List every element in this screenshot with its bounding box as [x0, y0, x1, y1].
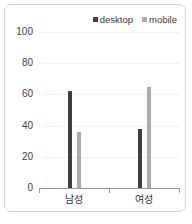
y-axis-tick-labels: 020406080100: [5, 5, 37, 211]
bar-desktop-남성[interactable]: [68, 91, 72, 188]
gridline-60: [39, 94, 179, 95]
bar-mobile-여성[interactable]: [147, 87, 151, 188]
gridline-20: [39, 157, 179, 158]
y-tick-label-80: 80: [5, 58, 37, 68]
x-axis-tick-2: [179, 188, 180, 193]
plot-wrapper: 020406080100 남성여성: [5, 5, 187, 211]
y-tick-label-0: 0: [5, 183, 37, 193]
y-tick-label-100: 100: [5, 27, 37, 37]
x-axis-tick-0: [39, 188, 40, 193]
gridline-100: [39, 32, 179, 33]
y-tick-label-40: 40: [5, 121, 37, 131]
bar-desktop-여성[interactable]: [138, 129, 142, 188]
x-axis-tick-1: [109, 188, 110, 193]
gridline-80: [39, 63, 179, 64]
gridline-40: [39, 126, 179, 127]
x-category-label-남성: 남성: [65, 195, 83, 205]
y-tick-label-60: 60: [5, 89, 37, 99]
plot-area: [39, 32, 179, 188]
bar-mobile-남성[interactable]: [77, 132, 81, 188]
y-tick-label-20: 20: [5, 152, 37, 162]
x-category-label-여성: 여성: [135, 195, 153, 205]
chart-frame: desktop mobile 020406080100 남성여성: [4, 4, 186, 212]
